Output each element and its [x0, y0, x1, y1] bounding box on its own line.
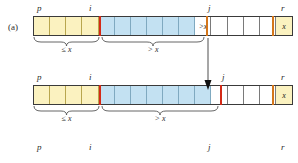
- array-cell-value: x: [282, 22, 286, 31]
- array-cell: [82, 17, 98, 35]
- array-cell: [195, 86, 211, 104]
- array-cell: [82, 86, 98, 104]
- array-cell: [147, 17, 163, 35]
- array-cell: [66, 17, 82, 35]
- array-cell: [179, 86, 195, 104]
- array-cell: [147, 86, 163, 104]
- array-cell: [163, 86, 179, 104]
- array-cell: [50, 86, 66, 104]
- array-cell: [163, 17, 179, 35]
- array-cell-value: x: [282, 91, 286, 100]
- row1-divider-pivot: [272, 16, 274, 36]
- array-cell: [50, 17, 66, 35]
- row2-label-i: i: [89, 72, 92, 82]
- row2-divider-pivot: [272, 85, 274, 105]
- array-cell: [131, 17, 147, 35]
- array-cell: [131, 86, 147, 104]
- array-cell: [115, 17, 131, 35]
- array-cell: [66, 86, 82, 104]
- row2-brace-gt-x: > x: [101, 106, 219, 115]
- array-cell: [244, 86, 260, 104]
- array-cell: [211, 17, 227, 35]
- row1-divider-i: [99, 16, 101, 36]
- row2-divider-j: [220, 85, 222, 105]
- row3-label-r: r: [281, 142, 285, 152]
- row1-divider-j: [206, 16, 208, 36]
- array-cell: x: [276, 86, 292, 104]
- row2-label-p: p: [37, 72, 42, 82]
- row3-label-p: p: [37, 142, 42, 152]
- array-cell: [244, 17, 260, 35]
- row2-label-r: r: [281, 72, 285, 82]
- array-cell: [179, 17, 195, 35]
- array-cell: x: [276, 17, 292, 35]
- row2-brace-label-le-x: ≤ x: [33, 114, 100, 123]
- array-cell: >x: [195, 17, 211, 35]
- array-row-before-swap: >xx: [33, 16, 293, 36]
- array-cell: [34, 86, 50, 104]
- row1-label-j: j: [208, 3, 211, 13]
- part-label: (a): [8, 22, 18, 32]
- row1-label-i: i: [89, 3, 92, 13]
- array-cell: [228, 17, 244, 35]
- row3-label-i: i: [89, 142, 92, 152]
- row1-brace-label-gt-x: > x: [101, 45, 205, 54]
- array-row-after-swap: x: [33, 85, 293, 105]
- row1-label-p: p: [37, 3, 42, 13]
- array-cell: [34, 17, 50, 35]
- row1-brace-label-le-x: ≤ x: [33, 45, 100, 54]
- figure-canvas: (a) p i j r >xx ≤ x > x p i j r x ≤ x: [0, 0, 298, 163]
- row2-brace-label-gt-x: > x: [101, 114, 219, 123]
- row1-brace-le-x: ≤ x: [33, 37, 100, 46]
- row3-label-j: j: [208, 142, 211, 152]
- row2-label-j: j: [222, 72, 225, 82]
- array-cell: [115, 86, 131, 104]
- array-cell: [228, 86, 244, 104]
- row2-brace-le-x: ≤ x: [33, 106, 100, 115]
- row1-label-r: r: [281, 3, 285, 13]
- row1-brace-gt-x: > x: [101, 37, 205, 46]
- row2-divider-i: [99, 85, 101, 105]
